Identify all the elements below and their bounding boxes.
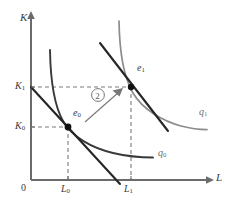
point-marker-e1 — [128, 84, 134, 90]
y-tick-k1-sub: 1 — [22, 84, 25, 91]
curve-q0-sub: 0 — [163, 151, 166, 158]
y-axis-label: K — [20, 12, 27, 23]
y-tick-k0-base: K — [15, 120, 22, 131]
point-marker-e0 — [65, 124, 72, 131]
shift-arrow-head — [113, 88, 124, 97]
curve-label-q0: q0 — [158, 148, 166, 159]
x-tick-label-l1: L1 — [124, 184, 133, 195]
curve-label-q1: q1 — [199, 107, 207, 118]
tick-marks-group — [31, 87, 131, 180]
y-tick-label-k1: K1 — [15, 81, 25, 92]
origin-label: 0 — [21, 183, 26, 193]
x-tick-label-l0: L0 — [61, 184, 70, 195]
guide-lines-group — [31, 87, 131, 180]
shift-arrow-group — [85, 88, 123, 122]
x-axis-label: L — [216, 172, 222, 183]
point-label-e1: e1 — [137, 63, 145, 74]
point-e1-sub: 1 — [141, 66, 144, 73]
y-tick-k1-base: K — [15, 80, 22, 91]
curve-q1-sub: 1 — [204, 110, 207, 117]
shift-arrow-shaft — [85, 92, 119, 122]
isocost-line-0 — [31, 87, 120, 184]
y-axis-arrowhead — [27, 11, 35, 19]
isoquant-isocost-figure: K L 0 K1 K0 L0 L1 e0 e1 q0 q1 2 — [0, 0, 233, 211]
x-tick-l1-sub: 1 — [130, 187, 133, 194]
x-tick-l0-sub: 0 — [67, 187, 70, 194]
isoquant-curve-q1 — [119, 21, 207, 130]
y-tick-label-k0: K0 — [15, 121, 25, 132]
annotation-number-2: 2 — [95, 91, 100, 101]
x-axis-arrowhead — [206, 176, 214, 184]
point-e0-sub: 0 — [77, 111, 80, 118]
point-label-e0: e0 — [73, 108, 81, 119]
y-tick-k0-sub: 0 — [22, 124, 25, 131]
